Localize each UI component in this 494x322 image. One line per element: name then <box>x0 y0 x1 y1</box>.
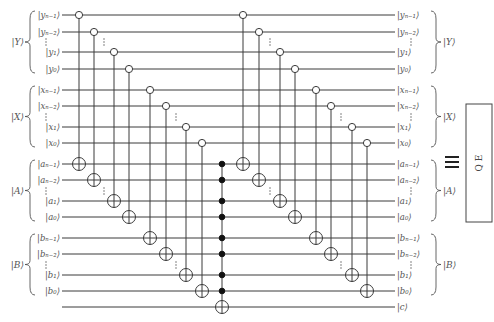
register-label-right: |X⟩ <box>443 112 456 123</box>
wire-label-left: |yₙ₋₂⟩ <box>38 27 60 38</box>
vertical-ellipsis-icon <box>410 267 411 268</box>
open-control-icon <box>110 48 117 55</box>
open-control-icon <box>125 65 132 72</box>
wire-label-right: |yₙ₋₁⟩ <box>397 10 419 21</box>
wire-label-right: |a₀⟩ <box>397 212 412 223</box>
wire-label-right: |xₙ₋₁⟩ <box>397 85 419 96</box>
vertical-ellipsis-icon <box>45 41 46 42</box>
register-braces: |Y⟩|Y⟩|X⟩|X⟩|A⟩|A⟩|B⟩|B⟩ <box>11 11 456 295</box>
vertical-ellipsis-icon <box>175 264 176 265</box>
vertical-ellipsis-icon <box>410 190 411 191</box>
wire-label-right: |xₙ₋₂⟩ <box>397 101 419 112</box>
qe-label: Q E <box>474 155 484 172</box>
wire-label-left: |xₙ₋₂⟩ <box>38 101 60 112</box>
vertical-ellipsis-icon <box>45 113 46 114</box>
wire-label-left: |y₀⟩ <box>46 64 60 75</box>
vertical-ellipsis-icon <box>410 113 411 114</box>
open-control-icon <box>255 28 262 35</box>
register-label-left: |Y⟩ <box>12 37 25 48</box>
closed-control-icon <box>219 198 225 204</box>
open-control-icon <box>182 123 189 130</box>
wire-label-right: |yₙ₋₂⟩ <box>397 27 419 38</box>
vertical-ellipsis-icon <box>103 41 104 42</box>
circuit-svg: |yₙ₋₁⟩|yₙ₋₁⟩|yₙ₋₂⟩|yₙ₋₂⟩|y₁⟩|y₁⟩|y₀⟩|y₀⟩… <box>0 0 494 322</box>
vertical-ellipsis-icon <box>410 187 411 188</box>
vertical-ellipsis-icon <box>45 38 46 39</box>
wire-label-left: |aₙ₋₂⟩ <box>37 175 60 186</box>
vertical-ellipsis-icon <box>410 119 411 120</box>
open-control-icon <box>75 11 82 18</box>
register-label-left: |B⟩ <box>11 260 24 271</box>
vertical-ellipsis-icon <box>410 261 411 262</box>
wire-label-left: |x₀⟩ <box>46 138 60 149</box>
qubit-wires <box>62 15 395 307</box>
open-control-icon <box>146 86 153 93</box>
open-control-icon <box>312 86 319 93</box>
vertical-ellipsis-icon <box>103 193 104 194</box>
vertical-ellipsis-icon <box>410 264 411 265</box>
wire-label-left: |a₁⟩ <box>45 196 60 207</box>
wire-label-right: |b₁⟩ <box>397 270 412 281</box>
wire-label-right: |bₙ₋₂⟩ <box>397 249 420 260</box>
vertical-ellipsis-icon <box>269 193 270 194</box>
qe-block: Q E <box>466 104 492 222</box>
vertical-ellipsis-icon <box>410 44 411 45</box>
wire-label-right: |y₀⟩ <box>397 64 411 75</box>
vertical-ellipsis-icon <box>410 193 411 194</box>
vertical-ellipsis-icon <box>175 267 176 268</box>
open-control-icon <box>239 11 246 18</box>
wire-label-right: |y₁⟩ <box>397 47 411 58</box>
vertical-ellipsis-icon <box>45 116 46 117</box>
vertical-ellipsis-icon <box>340 119 341 120</box>
vertical-ellipsis-icon <box>340 267 341 268</box>
vertical-ellipsis-icon <box>45 267 46 268</box>
vertical-ellipsis-icon <box>269 187 270 188</box>
wire-label-right: |a₁⟩ <box>397 196 412 207</box>
brace-icon <box>431 11 441 73</box>
wire-label-left: |xₙ₋₁⟩ <box>38 85 60 96</box>
vertical-ellipsis-icon <box>269 190 270 191</box>
open-control-icon <box>162 102 169 109</box>
vertical-ellipsis-icon <box>45 119 46 120</box>
wire-label-left: |b₁⟩ <box>45 270 60 281</box>
open-control-icon <box>348 123 355 130</box>
closed-control-icon <box>219 288 225 294</box>
vertical-ellipsis-icon <box>175 116 176 117</box>
vertical-ellipsis-icon <box>340 113 341 114</box>
vertical-ellipsis-icon <box>410 41 411 42</box>
open-control-icon <box>363 139 370 146</box>
brace-icon <box>25 86 35 147</box>
equivalence-symbol <box>445 157 459 167</box>
closed-control-icon <box>219 251 225 257</box>
closed-control-icon <box>219 272 225 278</box>
open-control-icon <box>276 48 283 55</box>
wire-label-left: |bₙ₋₁⟩ <box>37 233 60 244</box>
vertical-ellipsis-icon <box>269 41 270 42</box>
vertical-ellipsis-icon <box>103 187 104 188</box>
vertical-ellipsis-icon <box>103 44 104 45</box>
vertical-ellipsis-icon <box>175 113 176 114</box>
open-control-icon <box>291 65 298 72</box>
wire-label-left: |x₁⟩ <box>46 122 60 133</box>
vertical-ellipsis-icon <box>175 261 176 262</box>
wire-label-right: |aₙ₋₂⟩ <box>397 175 420 186</box>
brace-icon <box>431 160 441 221</box>
wire-label-left: |yₙ₋₁⟩ <box>38 10 60 21</box>
register-label-left: |A⟩ <box>11 186 24 197</box>
quantum-circuit-diagram: |yₙ₋₁⟩|yₙ₋₁⟩|yₙ₋₂⟩|yₙ₋₂⟩|y₁⟩|y₁⟩|y₀⟩|y₀⟩… <box>0 0 494 322</box>
vertical-ellipsis-icon <box>103 38 104 39</box>
open-control-icon <box>198 139 205 146</box>
wire-label-left: |b₀⟩ <box>45 286 60 297</box>
vertical-ellipsis-icon <box>269 38 270 39</box>
open-control-icon <box>327 102 334 109</box>
closed-control-icon <box>219 235 225 241</box>
wire-label-right: |x₁⟩ <box>397 122 411 133</box>
brace-icon <box>431 234 441 295</box>
vertical-ellipsis-icon <box>340 116 341 117</box>
brace-icon <box>431 86 441 147</box>
register-label-right: |A⟩ <box>443 186 456 197</box>
wire-label-right: |x₀⟩ <box>397 138 411 149</box>
vertical-ellipsis-icon <box>410 116 411 117</box>
wire-label-right: |aₙ₋₁⟩ <box>397 159 420 170</box>
closed-control-icon <box>219 214 225 220</box>
